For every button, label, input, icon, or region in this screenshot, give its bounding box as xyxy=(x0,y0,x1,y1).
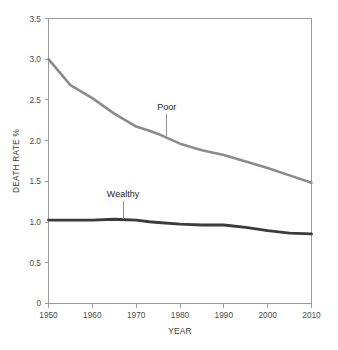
death-rate-line-chart: 3.5 3.0 2.5 2.0 1.5 1.0 0.5 0 1950 1960 … xyxy=(0,0,338,350)
y-tick-label-3-5: 3.5 xyxy=(29,14,41,24)
x-tick-label-1980: 1980 xyxy=(171,310,190,320)
x-tick-label-1970: 1970 xyxy=(127,310,146,320)
y-tick-label-1-5: 1.5 xyxy=(29,176,41,186)
x-tick-label-1950: 1950 xyxy=(39,310,58,320)
y-tick-label-1-0: 1.0 xyxy=(29,217,41,227)
y-axis-title: DEATH RATE % xyxy=(11,129,21,193)
y-tick-label-2-0: 2.0 xyxy=(29,136,41,146)
y-tick-label-2-5: 2.5 xyxy=(29,95,41,105)
x-tick-label-1960: 1960 xyxy=(83,310,102,320)
chart-container: 3.5 3.0 2.5 2.0 1.5 1.0 0.5 0 1950 1960 … xyxy=(0,0,338,350)
x-tick-label-2000: 2000 xyxy=(258,310,277,320)
x-tick-label-1990: 1990 xyxy=(215,310,234,320)
y-tick-label-0: 0 xyxy=(36,298,41,308)
y-tick-label-0-5: 0.5 xyxy=(29,258,41,268)
x-tick-label-2010: 2010 xyxy=(302,310,321,320)
series-label-wealthy: Wealthy xyxy=(107,189,140,199)
x-axis-title: YEAR xyxy=(168,326,192,336)
series-label-poor: Poor xyxy=(157,102,176,112)
y-tick-label-3-0: 3.0 xyxy=(29,54,41,64)
